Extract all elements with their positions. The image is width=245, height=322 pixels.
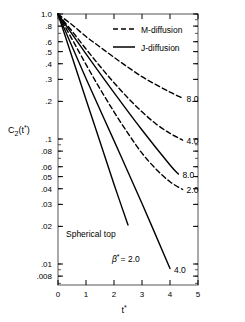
figure-container: 1.0.8.6.5.4.3.2.1.08.06.05.04.03.02.01.0…: [0, 0, 245, 322]
legend-label-j-diffusion: J-diffusion: [141, 43, 180, 53]
y-tick-label: .8: [45, 22, 52, 31]
curve-end-label: 4.0: [174, 265, 186, 275]
annotation-spherical-top: Spherical top: [66, 229, 116, 239]
annotations: Spherical topβ*= 2.0: [66, 229, 140, 264]
x-tick-label: 5: [196, 290, 201, 299]
y-tick-label: .03: [41, 200, 53, 209]
y-tick-label: .3: [45, 75, 52, 84]
legend-label-m-diffusion: M-diffusion: [141, 25, 183, 35]
curve-end-label: 8.0: [187, 94, 199, 104]
y-tick-label: .1: [45, 135, 52, 144]
y-tick-label: .6: [45, 38, 52, 47]
beta-value: = 2.0: [121, 254, 140, 264]
x-label-superscript: *: [124, 304, 127, 311]
y-label-paren-close: ): [27, 125, 30, 135]
axis-labels: C2(t*)t*: [8, 124, 127, 316]
y-tick-label: .08: [41, 147, 53, 156]
x-tick-label: 2: [112, 290, 117, 299]
curve-solid: [58, 14, 128, 225]
y-tick-label: .2: [45, 97, 52, 106]
y-tick-label: .01: [41, 260, 53, 269]
curve-labels: 8.04.02.08.04.0: [174, 94, 199, 274]
legend: M-diffusionJ-diffusion: [113, 25, 183, 53]
curve-end-label: 4.0: [187, 136, 199, 146]
x-tick-label: 4: [168, 290, 173, 299]
plot-frame: [58, 14, 198, 285]
y-tick-label: .04: [41, 185, 53, 194]
x-tick-label: 0: [56, 290, 61, 299]
beta-superscript: *: [117, 253, 120, 260]
y-tick-label: .05: [41, 173, 53, 182]
y-tick-label: .4: [45, 60, 52, 69]
y-tick-label: .06: [41, 163, 53, 172]
curve-end-label: 2.0: [187, 185, 199, 195]
plot-border: [58, 14, 198, 285]
y-tick-label: .5: [45, 48, 52, 57]
curve-end-label: 8.0: [182, 170, 194, 180]
y-tick-label: .008: [36, 272, 52, 281]
y-tick-label: .02: [41, 222, 53, 231]
chart-svg: 1.0.8.6.5.4.3.2.1.08.06.05.04.03.02.01.0…: [0, 0, 245, 322]
x-tick-label: 1: [84, 290, 89, 299]
y-axis-label: C2(t*): [8, 124, 30, 138]
annotation-beta-star: β*= 2.0: [111, 253, 140, 265]
x-axis-label: t*: [121, 304, 127, 316]
x-tick-label: 3: [140, 290, 145, 299]
y-tick-label: 1.0: [41, 10, 53, 19]
